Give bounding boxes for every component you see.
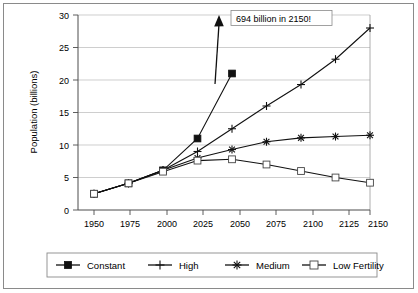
- legend-item-constant[interactable]: Constant: [56, 260, 125, 271]
- legend-item-low-fertility[interactable]: Low Fertility: [302, 260, 384, 271]
- data-point-marker: [263, 161, 270, 168]
- data-point-marker: [332, 174, 339, 181]
- asterisk-icon: [233, 261, 242, 270]
- x-tick-label-2000: 2000: [157, 219, 177, 229]
- x-tick-label-2025: 2025: [193, 219, 213, 229]
- data-point-marker: [194, 135, 201, 142]
- data-point-marker: [263, 102, 271, 110]
- legend-label-high: High: [179, 260, 199, 271]
- data-point-marker: [91, 190, 98, 197]
- plus-icon: [297, 81, 305, 89]
- x-axis-ticks: [94, 210, 370, 215]
- series-line-path: [94, 159, 370, 193]
- series-constant: [91, 70, 236, 197]
- series-high: [90, 24, 374, 198]
- filled-square-icon: [194, 135, 201, 142]
- data-point-marker: [228, 125, 236, 133]
- y-tick-label-5: 5: [64, 173, 69, 183]
- chart-legend: Constant High Medium: [47, 253, 384, 277]
- y-tick-label-10: 10: [59, 141, 69, 151]
- data-point-marker: [297, 134, 305, 142]
- data-point-marker: [298, 168, 305, 175]
- population-projection-figure: 30 25 20 15 10 5 0 Population (billions)…: [0, 0, 418, 293]
- y-axis-tick-labels: 30 25 20 15 10 5 0: [59, 11, 69, 216]
- x-tick-label-2125: 2125: [339, 219, 359, 229]
- filled-square-icon: [229, 70, 236, 77]
- open-square-icon: [194, 157, 201, 164]
- annotation-arrow-head: [214, 15, 224, 27]
- plus-icon: [263, 102, 271, 110]
- y-tick-label-0: 0: [64, 206, 69, 216]
- annotation-callout-text: 694 billion in 2150!: [236, 14, 311, 24]
- data-point-marker: [228, 146, 236, 154]
- data-point-marker: [194, 157, 201, 164]
- y-tick-label-25: 25: [59, 43, 69, 53]
- asterisk-icon: [263, 138, 271, 146]
- x-tick-label-1975: 1975: [120, 219, 140, 229]
- legend-label-low-fertility: Low Fertility: [333, 260, 384, 271]
- plus-icon: [228, 125, 236, 133]
- asterisk-icon: [297, 134, 305, 142]
- data-point-marker: [229, 156, 236, 163]
- open-square-icon: [160, 168, 167, 175]
- open-square-icon: [91, 190, 98, 197]
- asterisk-icon: [228, 146, 236, 154]
- open-square-icon: [332, 174, 339, 181]
- open-square-icon: [125, 180, 132, 187]
- asterisk-icon: [332, 133, 340, 141]
- data-point-marker: [297, 81, 305, 89]
- data-series-layer: [90, 24, 374, 198]
- series-line-path: [94, 135, 370, 194]
- asterisk-icon: [366, 131, 374, 139]
- data-point-marker: [125, 180, 132, 187]
- y-tick-label-30: 30: [59, 11, 69, 21]
- data-point-marker: [160, 168, 167, 175]
- open-square-icon: [229, 156, 236, 163]
- series-line-path: [94, 74, 232, 194]
- x-tick-label-2075: 2075: [266, 219, 286, 229]
- open-square-icon: [310, 261, 318, 269]
- x-tick-label-2150: 2150: [368, 219, 388, 229]
- annotation-arrow-shaft: [215, 24, 219, 84]
- data-point-marker: [229, 70, 236, 77]
- legend-label-medium: Medium: [256, 260, 290, 271]
- data-point-marker: [332, 133, 340, 141]
- y-axis-title: Population (billions): [28, 71, 39, 154]
- filled-square-icon: [65, 262, 72, 269]
- legend-label-constant: Constant: [87, 260, 125, 271]
- open-square-icon: [367, 179, 374, 186]
- x-tick-label-1950: 1950: [84, 219, 104, 229]
- x-axis-tick-labels: 1950 1975 2000 2025 2050 2075 2100 2125 …: [84, 219, 388, 229]
- open-square-icon: [263, 161, 270, 168]
- gridlines: [78, 15, 370, 178]
- data-point-marker: [263, 138, 271, 146]
- series-medium: [90, 131, 374, 198]
- data-point-marker: [366, 131, 374, 139]
- series-low-fertility: [91, 156, 374, 197]
- data-point-marker: [367, 179, 374, 186]
- x-tick-label-2050: 2050: [230, 219, 250, 229]
- open-square-icon: [298, 168, 305, 175]
- y-tick-label-20: 20: [59, 76, 69, 86]
- line-chart: 30 25 20 15 10 5 0 Population (billions)…: [0, 0, 418, 293]
- y-axis-ticks: [73, 15, 78, 210]
- series-line-path: [94, 28, 370, 194]
- y-tick-label-15: 15: [59, 108, 69, 118]
- x-tick-label-2100: 2100: [303, 219, 323, 229]
